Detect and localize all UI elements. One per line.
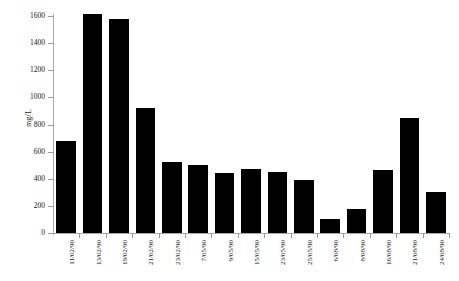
bar <box>373 170 393 233</box>
bar <box>162 162 182 233</box>
y-axis-tick-label: 1000 <box>5 93 45 101</box>
x-axis-line <box>53 233 449 234</box>
x-axis-tick <box>185 233 186 238</box>
x-axis-tick-label: 25/05/90 <box>307 240 314 265</box>
x-axis-tick-label: 13/02/90 <box>96 240 103 265</box>
bar <box>56 141 76 233</box>
x-axis-tick-label: 11/02/90 <box>69 240 76 265</box>
bar <box>83 14 103 233</box>
x-axis-tick <box>449 233 450 238</box>
x-axis-tick-label: 21/02/90 <box>148 240 155 265</box>
y-axis-tick-label: 1400 <box>5 39 45 47</box>
x-axis-tick <box>343 233 344 238</box>
x-axis-tick-label: 24/08/90 <box>439 240 446 265</box>
bar <box>426 192 446 233</box>
bar <box>294 180 314 233</box>
y-axis-tick <box>48 233 54 234</box>
x-axis-tick <box>291 233 292 238</box>
x-axis-tick <box>423 233 424 238</box>
bar <box>188 165 208 233</box>
bar <box>215 173 235 233</box>
bar <box>320 219 340 233</box>
x-axis-tick <box>79 233 80 238</box>
x-axis-tick <box>211 233 212 238</box>
y-axis-tick-label: 400 <box>5 175 45 183</box>
bar <box>136 108 156 233</box>
x-axis-tick <box>132 233 133 238</box>
y-axis-tick-label: 600 <box>5 148 45 156</box>
bar <box>109 19 129 233</box>
y-axis-tick-label: 0 <box>5 229 45 237</box>
x-axis-tick-label: 6/08/90 <box>333 240 340 261</box>
x-axis-tick <box>159 233 160 238</box>
bar <box>268 172 288 233</box>
x-axis-tick-label: 23/02/90 <box>175 240 182 265</box>
x-axis-tick <box>396 233 397 238</box>
bar-chart: mg/L 02004006008001000120014001600 11/02… <box>0 0 459 281</box>
bar <box>241 169 261 233</box>
y-axis-tick-label: 800 <box>5 121 45 129</box>
x-axis-tick <box>317 233 318 238</box>
x-axis-tick-label: 7/05/90 <box>201 240 208 261</box>
x-axis-tick <box>370 233 371 238</box>
x-axis-tick <box>106 233 107 238</box>
x-axis-tick <box>264 233 265 238</box>
x-axis-tick-label: 9/05/90 <box>228 240 235 261</box>
x-axis-tick-label: 21/08/90 <box>412 240 419 265</box>
x-axis-tick-label: 23/05/90 <box>280 240 287 265</box>
y-axis-tick-label: 1600 <box>5 12 45 20</box>
x-axis-tick-label: 19/02/90 <box>122 240 129 265</box>
y-axis-tick-label: 200 <box>5 202 45 210</box>
y-axis-tick-label: 1200 <box>5 66 45 74</box>
x-axis-tick-label: 16/08/90 <box>386 240 393 265</box>
bar <box>400 118 420 233</box>
y-axis-label: mg/L <box>24 98 33 138</box>
x-axis-tick <box>238 233 239 238</box>
x-axis-tick-label: 15/05/90 <box>254 240 261 265</box>
plot-area <box>53 16 449 233</box>
x-axis-tick-label: 8/08/90 <box>360 240 367 261</box>
bar <box>347 209 367 233</box>
